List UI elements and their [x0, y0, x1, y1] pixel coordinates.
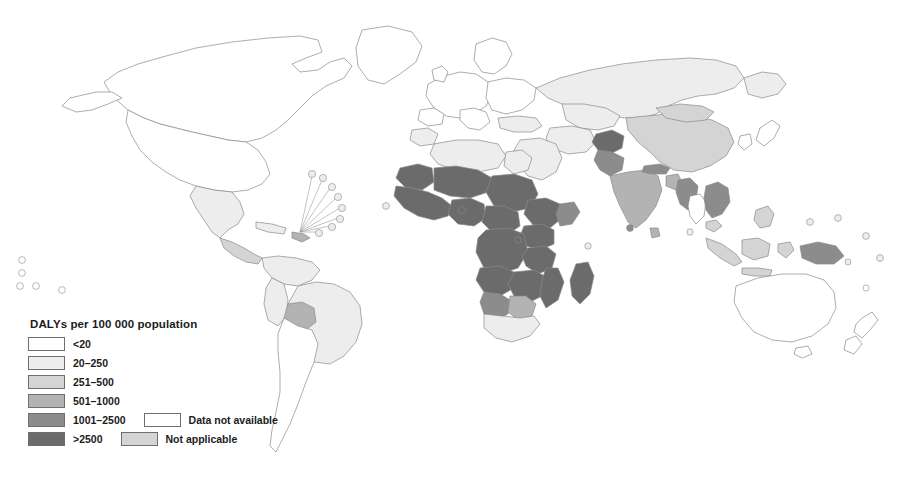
- region-south-africa: [484, 314, 540, 342]
- legend-swatch: [28, 375, 65, 389]
- region-pakistan: [594, 150, 624, 176]
- region-indonesia-sumatra: [706, 238, 742, 266]
- region-turkey: [498, 116, 542, 132]
- region-tasmania: [794, 346, 812, 358]
- region-siberia-east: [744, 72, 786, 98]
- legend-swatch: [28, 413, 65, 427]
- region-malaysia: [706, 220, 722, 232]
- region-nigeria: [448, 198, 486, 226]
- legend-label: 501–1000: [73, 394, 120, 408]
- legend-swatch: [28, 394, 65, 408]
- legend-label-not-applicable: Not applicable: [166, 432, 238, 446]
- region-morocco: [410, 128, 438, 146]
- region-hispaniola: [292, 232, 310, 242]
- legend-label: 1001–2500: [73, 413, 126, 427]
- region-angola: [476, 266, 514, 296]
- legend-aux-row: Not applicable: [121, 432, 238, 446]
- legend-swatch: [28, 337, 65, 351]
- legend-label: 20–250: [73, 356, 108, 370]
- world-map-figure: DALYs per 100 000 population <20 20–250 …: [0, 0, 910, 491]
- map-legend: DALYs per 100 000 population <20 20–250 …: [28, 318, 328, 447]
- legend-swatch: [28, 432, 65, 446]
- legend-row: >2500 Not applicable: [28, 430, 328, 447]
- region-china: [626, 114, 734, 172]
- region-eastern-europe: [486, 78, 536, 114]
- legend-row: <20: [28, 335, 328, 352]
- region-mexico: [190, 186, 244, 238]
- region-indochina: [704, 182, 730, 218]
- region-mozambique: [540, 268, 564, 308]
- region-borneo: [742, 238, 770, 260]
- region-italy-balkans: [460, 108, 490, 130]
- region-thailand: [688, 194, 706, 224]
- region-japan: [756, 120, 780, 146]
- region-somalia: [556, 202, 580, 226]
- region-alaska: [62, 92, 122, 112]
- region-philippines: [754, 206, 774, 228]
- region-afghanistan: [592, 130, 624, 154]
- region-indonesia-java: [742, 268, 772, 276]
- legend-aux-row: Data not available: [144, 413, 278, 427]
- legend-row: 20–250: [28, 354, 328, 371]
- region-sri-lanka: [650, 228, 660, 238]
- legend-label-data-not-available: Data not available: [189, 413, 278, 427]
- legend-title: DALYs per 100 000 population: [30, 318, 328, 330]
- legend-class-list: <20 20–250 251–500 501–1000 1001–2500 Da…: [28, 335, 328, 447]
- legend-row: 501–1000: [28, 392, 328, 409]
- legend-row: 251–500: [28, 373, 328, 390]
- region-sulawesi: [778, 242, 794, 258]
- caribbean-callout-cluster: [300, 170, 346, 236]
- region-mauritania: [396, 164, 434, 190]
- region-india: [610, 170, 662, 228]
- region-central-america: [220, 238, 262, 264]
- region-australia: [734, 274, 836, 342]
- legend-label: >2500: [73, 432, 103, 446]
- region-scandinavia: [474, 38, 512, 74]
- region-madagascar: [570, 262, 594, 304]
- region-korea: [738, 134, 752, 150]
- legend-label: 251–500: [73, 375, 114, 389]
- legend-row: 1001–2500 Data not available: [28, 411, 328, 428]
- region-new-zealand-south: [844, 336, 862, 354]
- legend-swatch-not-applicable: [121, 432, 158, 446]
- legend-swatch-data-not-available: [144, 413, 181, 427]
- region-new-zealand: [854, 312, 878, 338]
- region-cuba: [256, 222, 286, 234]
- legend-swatch: [28, 356, 65, 370]
- region-papua-new-guinea: [800, 242, 844, 264]
- region-greenland: [356, 26, 422, 84]
- legend-label: <20: [73, 337, 91, 351]
